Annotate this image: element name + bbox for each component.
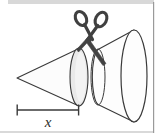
right-rule — [153, 2, 154, 133]
figure-container: x — [0, 0, 157, 135]
bottom-rule — [0, 132, 154, 133]
cone-scissors-figure: x — [0, 0, 157, 135]
left-cone-cut-face-highlight — [75, 52, 86, 102]
dimension-label-x: x — [44, 114, 52, 130]
top-band — [8, 0, 154, 4]
right-frustum-large-end — [121, 30, 147, 122]
